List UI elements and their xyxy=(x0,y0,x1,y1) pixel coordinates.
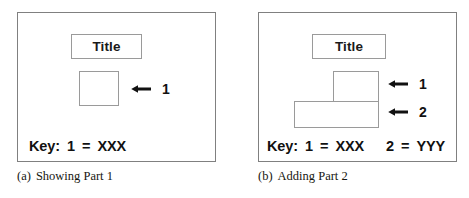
subcaption-b: (b)Adding Part 2 xyxy=(258,170,348,183)
panel-a: Title 1 Key: 1 = XXX xyxy=(17,12,216,162)
key-entry-equals-1-a: = xyxy=(82,139,90,154)
subcaption-a: (a)Showing Part 1 xyxy=(17,170,113,183)
part-box-1-b xyxy=(333,71,379,102)
callout-part-1-a: 1 xyxy=(130,81,170,97)
figure-two-panel-assembly-diagram: Title 1 Key: 1 = XXX (a)Showing Part 1 T… xyxy=(0,0,469,198)
key-entry-number-1-a: 1 xyxy=(67,139,75,154)
callout-label-1-b: 1 xyxy=(419,77,427,91)
title-box-a: Title xyxy=(71,34,142,59)
key-entry-value-2-b: YYY xyxy=(416,139,445,154)
callout-part-2-b: 2 xyxy=(387,104,427,120)
panel-b: Title 1 2 Key: 1 = XXX 2 = YYY xyxy=(258,12,457,162)
key-entry-number-1-b: 1 xyxy=(305,139,313,154)
callout-label-1-a: 1 xyxy=(162,82,170,96)
part-box-1-a xyxy=(79,71,119,106)
callout-label-2-b: 2 xyxy=(419,105,427,119)
left-arrow-icon xyxy=(130,83,152,95)
key-entry-equals-2-b: = xyxy=(401,139,409,154)
key-label-a: Key: xyxy=(29,139,60,154)
key-line-a: Key: 1 = XXX xyxy=(29,139,126,154)
key-entry-value-1-b: XXX xyxy=(335,139,364,154)
part-box-2-b xyxy=(294,101,379,128)
left-arrow-icon xyxy=(387,106,409,118)
key-line-b: Key: 1 = XXX 2 = YYY xyxy=(267,139,445,154)
key-entry-equals-1-b: = xyxy=(320,139,328,154)
callout-part-1-b: 1 xyxy=(387,76,427,92)
left-arrow-icon xyxy=(387,78,409,90)
subcaption-tag-b: (b) xyxy=(258,169,273,183)
title-box-b: Title xyxy=(312,34,386,59)
subcaption-tag-a: (a) xyxy=(17,169,31,183)
key-label-b: Key: xyxy=(267,139,298,154)
key-entry-number-2-b: 2 xyxy=(386,139,394,154)
title-label-a: Title xyxy=(92,40,120,54)
title-label-b: Title xyxy=(335,40,363,54)
key-entry-value-1-a: XXX xyxy=(97,139,126,154)
subcaption-text-b: Adding Part 2 xyxy=(278,169,348,183)
subcaption-text-a: Showing Part 1 xyxy=(36,169,113,183)
